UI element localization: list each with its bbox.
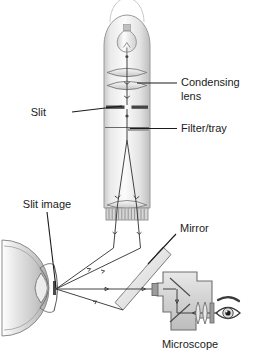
label-filter-tray: Filter/tray [181,122,227,134]
label-condensing-lens-line1: Condensing [181,76,240,88]
knurled-barrel [106,208,148,220]
microscope-objective [152,284,158,296]
observer-eye [214,297,240,318]
leader-slit-image [47,212,56,288]
label-slit-image: Slit image [23,198,71,210]
microscope-body [152,272,214,330]
label-condensing-lens-line2: lens [181,90,202,102]
slit-lamp-diagram: Condensing lens Filter/tray Slit Slit im… [0,0,258,359]
label-slit: Slit [31,106,46,118]
patient-eye [2,240,58,336]
diagram-canvas: Condensing lens Filter/tray Slit Slit im… [0,0,258,359]
label-microscope: Microscope [162,338,218,350]
eyepiece-lenses [196,302,214,324]
label-mirror: Mirror [180,222,209,234]
